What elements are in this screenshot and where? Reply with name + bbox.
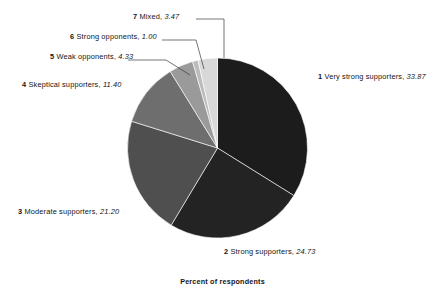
pie-label-2-index: 2 xyxy=(224,247,228,256)
pie-label-6-index: 6 xyxy=(70,32,74,41)
pie-label-2-text: Strong supporters xyxy=(230,247,291,256)
chart-figure: 1 Very strong supporters, 33.87 2 Strong… xyxy=(0,0,445,295)
pie-label-7-text: Mixed xyxy=(139,12,159,21)
pie-label-5-text: Weak opponents xyxy=(56,52,113,61)
leader-line-slice-7 xyxy=(196,19,224,58)
pie-label-6-text: Strong opponents xyxy=(76,32,137,41)
pie-chart-canvas xyxy=(0,0,445,295)
pie-label-6: 6 Strong opponents, 1.00 xyxy=(70,33,157,41)
chart-caption: Percent of respondents xyxy=(0,277,445,286)
pie-label-4-index: 4 xyxy=(22,80,26,89)
pie-label-3-value: 21.20 xyxy=(100,207,119,216)
pie-label-4-value: 11.40 xyxy=(103,80,122,89)
pie-label-4-text: Skeptical supporters xyxy=(28,80,98,89)
pie-label-3: 3 Moderate supporters, 21.20 xyxy=(18,208,119,216)
pie-label-7-index: 7 xyxy=(133,12,137,21)
pie-label-3-text: Moderate supporters xyxy=(24,207,95,216)
pie-label-1-text: Very strong supporters xyxy=(324,72,402,81)
pie-label-2-value: 24.73 xyxy=(296,247,315,256)
pie-label-1: 1 Very strong supporters, 33.87 xyxy=(318,73,426,81)
pie-label-7: 7 Mixed, 3.47 xyxy=(133,13,179,21)
pie-label-5-index: 5 xyxy=(50,52,54,61)
pie-label-4: 4 Skeptical supporters, 11.40 xyxy=(22,81,122,89)
pie-label-3-index: 3 xyxy=(18,207,22,216)
pie-label-1-value: 33.87 xyxy=(407,72,426,81)
pie-label-2: 2 Strong supporters, 24.73 xyxy=(224,248,315,256)
pie-label-1-index: 1 xyxy=(318,72,322,81)
pie-label-5-value: 4.33 xyxy=(118,52,133,61)
pie-label-6-value: 1.00 xyxy=(142,32,157,41)
pie-label-5: 5 Weak opponents, 4.33 xyxy=(50,53,133,61)
pie-slice-group xyxy=(127,58,307,238)
pie-label-7-value: 3.47 xyxy=(164,12,179,21)
